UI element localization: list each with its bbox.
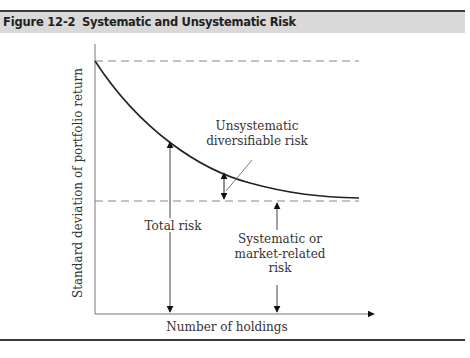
y-axis-label: Standard deviation of portfolio return [71,68,85,298]
systematic-label-line-3: risk [268,261,292,275]
unsystematic-label-line-2: diversifiable risk [206,134,308,148]
total-risk-label: Total risk [145,219,203,233]
x-axis-label: Number of holdings [166,320,287,334]
unsystematic-leader-line [226,160,252,191]
unsystematic-label-line-1: Unsystematic [216,119,299,133]
bottom-rule [0,339,465,341]
systematic-label-line-2: market-related [235,247,326,261]
systematic-label-line-1: Systematic or [238,232,322,246]
risk-diagram: Standard deviation of portfolio return N… [0,0,470,358]
